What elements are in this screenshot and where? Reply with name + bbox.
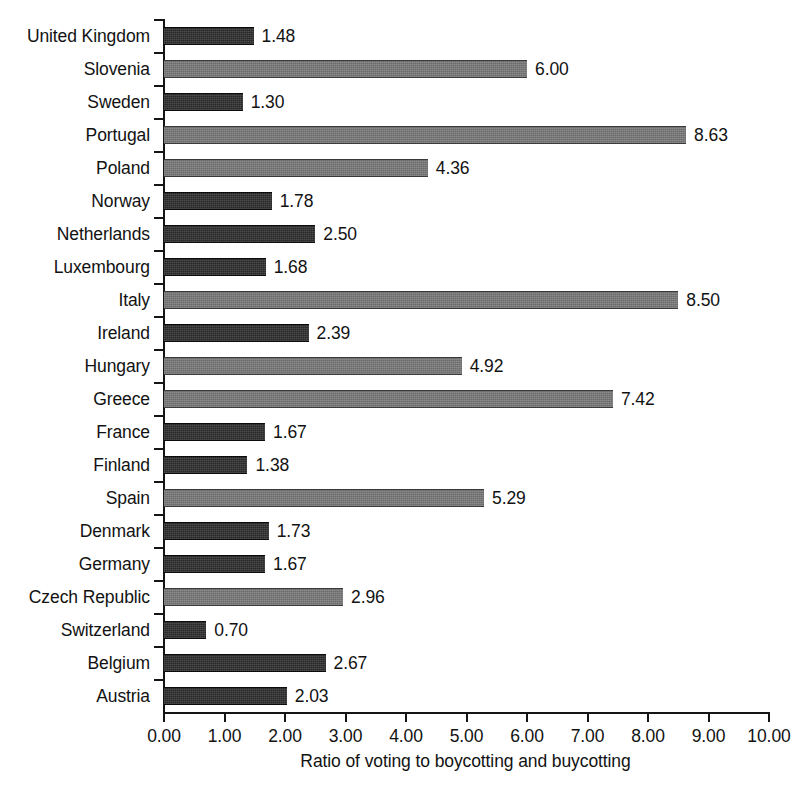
y-axis-tick <box>154 283 163 285</box>
category-label: Netherlands <box>57 218 150 251</box>
category-label: Germany <box>79 548 150 581</box>
y-axis-tick <box>154 679 163 681</box>
bar-value-label: 8.63 <box>694 119 728 152</box>
bar <box>164 522 269 540</box>
bar <box>164 126 686 144</box>
bar-value-label: 4.36 <box>436 152 470 185</box>
chart-row: Portugal8.63 <box>163 119 768 152</box>
category-label: Denmark <box>80 515 150 548</box>
bar <box>164 357 462 375</box>
y-axis-tick <box>154 547 163 549</box>
bar <box>164 60 527 78</box>
y-axis-tick <box>154 151 163 153</box>
chart-row: Czech Republic2.96 <box>163 581 768 614</box>
x-axis-tick-label: 0.00 <box>147 726 181 747</box>
chart-row: Italy8.50 <box>163 284 768 317</box>
y-axis-tick <box>154 646 163 648</box>
y-axis-tick <box>154 217 163 219</box>
bar-value-label: 1.73 <box>277 515 311 548</box>
chart-row: Austria2.03 <box>163 680 768 713</box>
y-axis-tick <box>154 85 163 87</box>
x-axis-tick-label: 3.00 <box>329 726 363 747</box>
bar <box>164 621 206 639</box>
y-axis-tick <box>154 514 163 516</box>
x-axis-tick <box>647 713 649 722</box>
bar <box>164 489 484 507</box>
bar <box>164 555 265 573</box>
bar <box>164 456 247 474</box>
chart-row: Sweden1.30 <box>163 86 768 119</box>
bar <box>164 423 265 441</box>
bar-value-label: 1.38 <box>255 449 289 482</box>
x-axis-tick <box>526 713 528 722</box>
bar-value-label: 1.67 <box>273 416 307 449</box>
bar <box>164 225 315 243</box>
chart-row: Switzerland0.70 <box>163 614 768 647</box>
chart-row: Greece7.42 <box>163 383 768 416</box>
x-axis-tick-label: 9.00 <box>692 726 726 747</box>
x-axis-tick <box>163 713 165 722</box>
y-axis-tick <box>154 415 163 417</box>
x-axis-tick-label: 4.00 <box>389 726 423 747</box>
chart-row: Finland1.38 <box>163 449 768 482</box>
plot-area: United Kingdom1.48Slovenia6.00Sweden1.30… <box>163 20 768 713</box>
bar-value-label: 2.50 <box>323 218 357 251</box>
y-axis-tick <box>154 382 163 384</box>
category-label: Greece <box>93 383 150 416</box>
category-label: Norway <box>91 185 150 218</box>
y-axis-tick <box>154 580 163 582</box>
x-axis-tick <box>708 713 710 722</box>
chart-row: Norway1.78 <box>163 185 768 218</box>
bar-chart: United Kingdom1.48Slovenia6.00Sweden1.30… <box>0 0 805 786</box>
x-axis-tick-label: 7.00 <box>571 726 605 747</box>
x-axis-tick-label: 2.00 <box>268 726 302 747</box>
chart-row: Germany1.67 <box>163 548 768 581</box>
x-axis-tick <box>466 713 468 722</box>
bar-value-label: 5.29 <box>492 482 526 515</box>
category-label: Switzerland <box>61 614 150 647</box>
bar-value-label: 1.67 <box>273 548 307 581</box>
chart-row: Hungary4.92 <box>163 350 768 383</box>
y-axis-tick <box>154 349 163 351</box>
bar-value-label: 6.00 <box>535 53 569 86</box>
x-axis-tick-label: 8.00 <box>631 726 665 747</box>
category-label: Spain <box>106 482 150 515</box>
category-label: United Kingdom <box>27 20 150 53</box>
bar-value-label: 1.78 <box>280 185 314 218</box>
y-axis-tick <box>154 184 163 186</box>
bar-value-label: 2.03 <box>295 680 329 713</box>
chart-row: Belgium2.67 <box>163 647 768 680</box>
bar <box>164 192 272 210</box>
x-axis-tick <box>224 713 226 722</box>
category-label: Slovenia <box>84 53 150 86</box>
bar-value-label: 1.48 <box>262 20 296 53</box>
category-label: Luxembourg <box>54 251 150 284</box>
x-axis-tick-label: 1.00 <box>208 726 242 747</box>
category-label: Belgium <box>87 647 150 680</box>
category-label: Finland <box>93 449 150 482</box>
chart-row: Denmark1.73 <box>163 515 768 548</box>
bar-value-label: 2.96 <box>351 581 385 614</box>
x-axis-tick <box>587 713 589 722</box>
chart-row: France1.67 <box>163 416 768 449</box>
category-label: Portugal <box>86 119 150 152</box>
y-axis-tick <box>154 481 163 483</box>
bar <box>164 687 287 705</box>
x-axis-title: Ratio of voting to boycotting and buycot… <box>163 751 768 772</box>
category-label: Czech Republic <box>29 581 150 614</box>
category-label: France <box>96 416 150 449</box>
bar <box>164 159 428 177</box>
bar <box>164 93 243 111</box>
bar-value-label: 7.42 <box>621 383 655 416</box>
category-label: Sweden <box>87 86 150 119</box>
bar-value-label: 1.30 <box>251 86 285 119</box>
bar-value-label: 8.50 <box>686 284 720 317</box>
y-axis-tick <box>154 448 163 450</box>
y-axis-tick <box>154 19 163 21</box>
x-axis-tick-label: 5.00 <box>450 726 484 747</box>
x-axis-tick-label: 10.00 <box>747 726 790 747</box>
chart-row: Slovenia6.00 <box>163 53 768 86</box>
bar-value-label: 1.68 <box>274 251 308 284</box>
chart-row: Poland4.36 <box>163 152 768 185</box>
x-axis-tick <box>405 713 407 722</box>
